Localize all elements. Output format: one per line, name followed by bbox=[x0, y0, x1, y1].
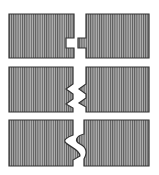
right-board bbox=[77, 120, 149, 166]
joint-s-curve bbox=[9, 120, 149, 166]
joint-double-tongue-and-groove bbox=[9, 67, 149, 112]
joint-diagram bbox=[0, 0, 159, 175]
left-board bbox=[9, 14, 74, 58]
right-board bbox=[79, 67, 149, 112]
left-board bbox=[9, 120, 80, 166]
left-board bbox=[9, 67, 73, 112]
right-board bbox=[78, 14, 149, 58]
joint-tongue-and-groove bbox=[9, 14, 149, 58]
